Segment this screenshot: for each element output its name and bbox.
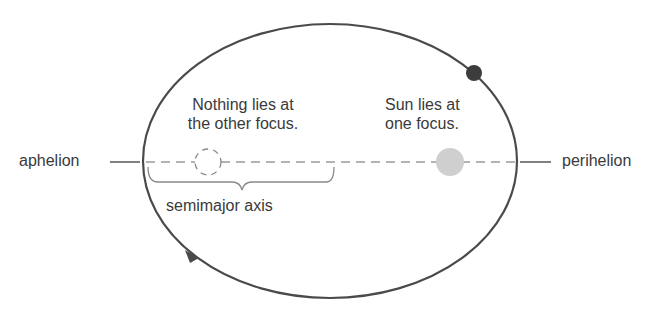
empty-focus-caption-line1: Nothing lies at [168, 95, 318, 114]
aphelion-label: aphelion [19, 151, 80, 170]
semimajor-axis-brace [148, 167, 334, 190]
sun-icon [436, 148, 464, 176]
empty-focus-dashed-circle [195, 149, 221, 175]
planet-icon [466, 65, 482, 81]
sun-focus-caption: Sun lies at one focus. [385, 95, 460, 133]
sun-focus-caption-line1: Sun lies at [385, 95, 460, 114]
empty-focus-caption: Nothing lies at the other focus. [168, 95, 318, 133]
semimajor-axis-label: semimajor axis [166, 196, 273, 215]
empty-focus-caption-line2: the other focus. [168, 114, 318, 133]
sun-focus-caption-line2: one focus. [385, 114, 460, 133]
perihelion-label: perihelion [562, 151, 631, 170]
